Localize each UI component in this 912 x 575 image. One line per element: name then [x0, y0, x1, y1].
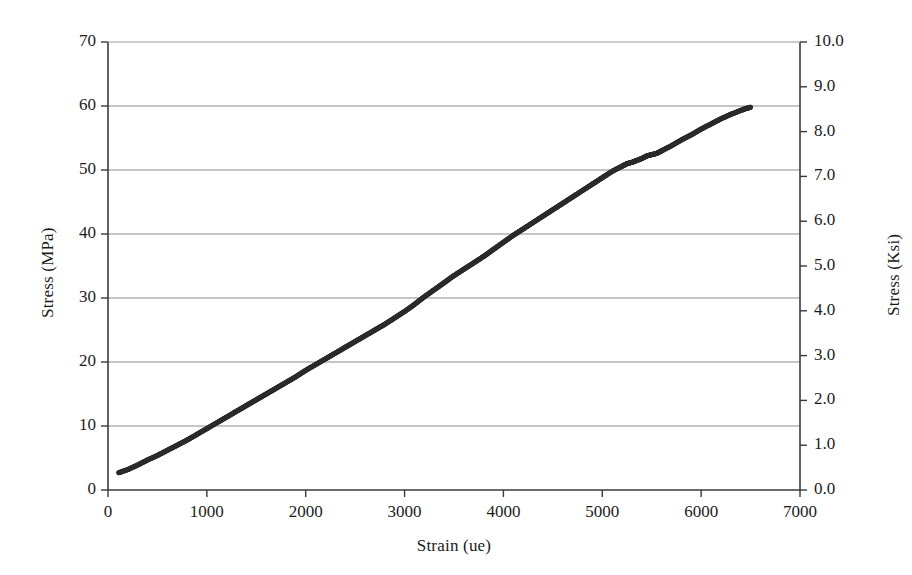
x-axis-title: Strain (ue): [334, 536, 574, 556]
y-axis-left-title: Stress (MPa): [38, 227, 58, 318]
x-axis-tick-label: 4000: [463, 502, 543, 522]
x-axis-tick-label: 5000: [562, 502, 642, 522]
x-axis-tick-label: 3000: [365, 502, 445, 522]
plot-canvas: [0, 0, 912, 575]
x-axis-tick-label: 6000: [661, 502, 741, 522]
y-axis-left-tick-label: 60: [30, 95, 96, 115]
y-axis-right-tick-label: 5.0: [814, 255, 874, 275]
y-axis-right-tick-label: 6.0: [814, 210, 874, 230]
y-axis-left-tick-label: 20: [30, 351, 96, 371]
y-axis-right-title: Stress (Ksi): [884, 234, 904, 316]
y-axis-left-tick-label: 0: [30, 479, 96, 499]
x-axis-tick-label: 2000: [266, 502, 346, 522]
x-axis-tick-label: 0: [68, 502, 148, 522]
y-axis-left-tick-label: 70: [30, 31, 96, 51]
grid-lines: [108, 106, 800, 426]
y-axis-right-tick-label: 2.0: [814, 389, 874, 409]
y-axis-right-tick-label: 3.0: [814, 345, 874, 365]
x-axis-tick-label: 1000: [167, 502, 247, 522]
y-axis-left-tick-label: 50: [30, 159, 96, 179]
x-axis-tick-label: 7000: [760, 502, 840, 522]
y-axis-right-tick-label: 4.0: [814, 300, 874, 320]
y-axis-right-tick-label: 7.0: [814, 165, 874, 185]
y-axis-right-tick-label: 9.0: [814, 76, 874, 96]
y-axis-right-tick-label: 0.0: [814, 479, 874, 499]
series-marker: [748, 105, 753, 110]
y-axis-right-tick-label: 1.0: [814, 434, 874, 454]
stress-strain-chart: 0102030405060700.01.02.03.04.05.06.07.08…: [0, 0, 912, 575]
data-series-stress-strain: [116, 105, 752, 475]
y-axis-right-tick-label: 10.0: [814, 31, 874, 51]
y-axis-right-tick-label: 8.0: [814, 121, 874, 141]
y-axis-left-tick-label: 10: [30, 415, 96, 435]
